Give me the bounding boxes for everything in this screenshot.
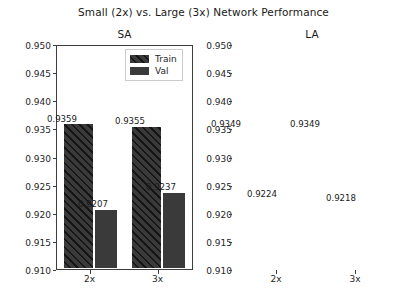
x-tick-label-2x: 2x [261, 275, 291, 284]
x-tick-mark [276, 270, 277, 274]
x-tick-label-3x: 3x [340, 275, 370, 284]
y-tick-mark [53, 270, 57, 271]
y-tick-label: 0.925 [200, 183, 232, 192]
y-tick-label: 0.940 [200, 98, 232, 107]
x-tick-label-2x: 2x [75, 275, 105, 284]
y-tick-mark [229, 270, 233, 271]
y-tick-label: 0.920 [19, 211, 51, 220]
legend-sa: Train Val [125, 49, 183, 81]
y-tick-label: 0.920 [200, 211, 232, 220]
bar-sa-val-3x[interactable] [162, 192, 186, 269]
bar-sa-train-2x[interactable] [63, 123, 94, 269]
subplot-sa: SA 0.950 0.945 0.940 0.935 0.930 0.925 0… [0, 0, 200, 304]
y-tick-label: 0.945 [200, 70, 232, 79]
subplot-la-title: LA [232, 28, 392, 40]
chart-figure: Small (2x) vs. Large (3x) Network Perfor… [0, 0, 407, 304]
y-tick-label: 0.915 [200, 239, 232, 248]
bar-value-label-sa-train-3x: 0.9355 [110, 117, 150, 126]
y-tick-label: 0.910 [19, 267, 51, 276]
subplot-la: LA 0.950 0.945 0.940 0.935 0.930 0.925 0… [200, 0, 407, 304]
y-tick-mark [229, 129, 233, 130]
y-tick-label: 0.935 [19, 126, 51, 135]
bar-value-label-sa-train-2x: 0.9359 [42, 115, 82, 124]
x-tick-label-3x: 3x [143, 275, 173, 284]
y-tick-label: 0.930 [19, 155, 51, 164]
y-tick-mark [229, 101, 233, 102]
y-tick-label: 0.940 [19, 98, 51, 107]
y-tick-label: 0.945 [19, 70, 51, 79]
bar-value-label-la-train-2x: 0.9349 [206, 120, 246, 129]
legend-label-train: Train [155, 55, 177, 64]
y-tick-mark [229, 214, 233, 215]
bar-value-label-sa-val-2x: 0.9207 [73, 200, 113, 209]
legend-item-train[interactable]: Train [130, 53, 177, 65]
y-tick-label: 0.930 [200, 155, 232, 164]
y-tick-label: 0.950 [19, 42, 51, 51]
y-tick-mark [229, 45, 233, 46]
y-tick-mark [229, 186, 233, 187]
y-tick-mark [229, 158, 233, 159]
legend-swatch-val-icon [130, 67, 149, 75]
subplot-sa-title: SA [56, 28, 193, 40]
y-tick-label: 0.915 [19, 239, 51, 248]
legend-label-val: Val [155, 67, 168, 76]
bar-value-label-la-val-2x: 0.9224 [242, 190, 282, 199]
x-tick-mark [158, 270, 159, 274]
bar-sa-val-2x[interactable] [94, 209, 118, 269]
y-tick-mark [229, 242, 233, 243]
y-tick-mark [229, 73, 233, 74]
bar-value-label-la-val-3x: 0.9218 [321, 194, 361, 203]
legend-swatch-train-icon [130, 55, 149, 63]
bar-sa-train-3x[interactable] [131, 126, 162, 269]
y-tick-label: 0.925 [19, 183, 51, 192]
bar-value-label-sa-val-3x: 0.9237 [141, 183, 181, 192]
bar-value-label-la-train-3x: 0.9349 [285, 120, 325, 129]
x-tick-mark [90, 270, 91, 274]
y-tick-label: 0.950 [200, 42, 232, 51]
y-tick-label: 0.910 [200, 267, 232, 276]
x-tick-mark [355, 270, 356, 274]
legend-item-val[interactable]: Val [130, 65, 177, 77]
